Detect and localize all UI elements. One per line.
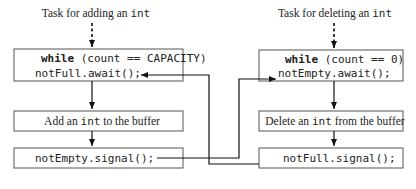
producer-consumer-diagram: Task for adding an int while (count == C… <box>0 0 416 189</box>
left-signal-stmt: notEmpty.signal(); <box>35 152 154 165</box>
right-await-stmt: notEmpty.await(); <box>278 67 391 80</box>
left-await-stmt: notFull.await(); <box>35 67 141 80</box>
zero-literal: 0 <box>391 53 398 66</box>
right-signal-stmt: notFull.signal(); <box>283 152 396 165</box>
left-task-title: Task for adding an int <box>22 3 163 20</box>
right-task-title: Task for deleting an int <box>258 3 404 20</box>
